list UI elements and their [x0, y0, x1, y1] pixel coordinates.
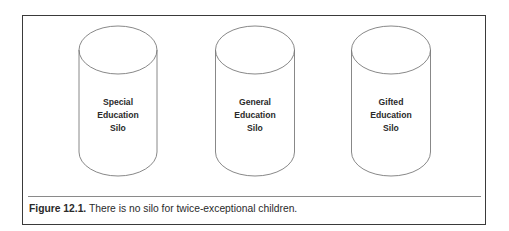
caption-divider [28, 196, 481, 197]
figure-caption: Figure 12.1. There is no silo for twice-… [29, 203, 297, 214]
silo-label-line: Education [210, 109, 300, 122]
silo-label-special-education: Special Education Silo [73, 96, 163, 134]
silo-label-general-education: General Education Silo [210, 96, 300, 134]
caption-text: There is no silo for twice-exceptional c… [86, 203, 297, 214]
figure-number: Figure 12.1. [29, 203, 86, 214]
silo-label-line: Silo [210, 122, 300, 135]
silo-label-gifted-education: Gifted Education Silo [346, 96, 436, 134]
silo-label-line: Special [73, 96, 163, 109]
silo-label-line: General [210, 96, 300, 109]
silo-label-line: Silo [73, 122, 163, 135]
silo-label-line: Education [73, 109, 163, 122]
silo-label-line: Silo [346, 122, 436, 135]
silo-label-line: Education [346, 109, 436, 122]
silo-label-line: Gifted [346, 96, 436, 109]
